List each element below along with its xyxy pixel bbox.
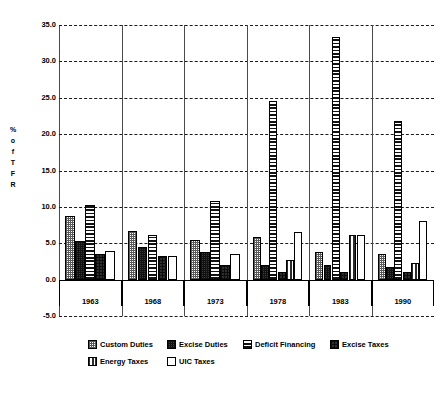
gridline [59,316,434,317]
bar [75,241,85,280]
bar-chart: %ofTFR 35.030.025.020.015.010.05.00.0-5.… [0,0,442,398]
y-axis-tick-label: 25.0 [22,94,56,102]
y-axis-tick-label: 30.0 [22,57,56,65]
bar [190,240,200,280]
bar [378,254,386,279]
legend-item-label: Energy Taxes [100,357,148,366]
legend-item-label: Excise Duties [179,340,228,349]
legend-item-label: Excise Taxes [342,340,389,349]
legend-item-label: Deficit Financing [255,340,315,349]
bars-layer [59,25,434,316]
y-axis-title-letter: % [6,124,20,135]
y-axis-tick-label: -5.0 [22,312,56,320]
bar [158,256,168,279]
x-axis-category-label: 1968 [122,297,185,306]
bar [340,272,348,279]
bar [261,265,269,280]
legend-item[interactable]: Excise Duties [167,338,228,350]
legend-item-label: UIC Taxes [179,357,215,366]
bar [278,272,286,279]
bar [85,205,95,280]
bar [65,216,75,280]
bar [253,237,261,279]
bar [269,101,277,279]
bar [95,254,105,279]
y-axis-tick-label: 10.0 [22,203,56,211]
legend-row: Energy TaxesUIC Taxes [0,355,442,371]
bar [394,121,402,280]
y-axis-title: %ofTFR [6,124,20,190]
legend-item[interactable]: Excise Taxes [330,338,389,350]
bar [419,221,427,279]
y-axis-title-letter: o [6,135,20,146]
bar [349,235,357,280]
y-axis-tick-label: 0.0 [22,276,56,284]
bar [168,256,178,280]
bar [210,201,220,280]
bar [128,231,138,280]
legend-item[interactable]: Deficit Financing [243,338,315,350]
legend-item[interactable]: Energy Taxes [88,355,148,367]
legend-item[interactable]: UIC Taxes [167,355,215,367]
legend-row: Custom DutiesExcise DutiesDeficit Financ… [0,338,442,354]
y-axis-title-letter: F [6,168,20,179]
x-axis-category-label: 1983 [309,297,372,306]
x-axis-category-label: 1978 [247,297,310,306]
bar [230,254,240,279]
y-axis-title-letter: f [6,146,20,157]
y-axis-title-letter: T [6,157,20,168]
bar [315,252,323,280]
y-axis-tick-label: 15.0 [22,167,56,175]
legend-swatch-icon [167,357,176,366]
bar [324,265,332,280]
x-axis-category-label: 1973 [184,297,247,306]
legend-swatch-icon [88,340,97,349]
y-axis-tick-label: 5.0 [22,239,56,247]
plot-area [59,25,434,316]
legend-swatch-icon [243,340,252,349]
legend-swatch-icon [167,340,176,349]
bar [332,37,340,279]
legend-item[interactable]: Custom Duties [88,338,153,350]
legend-item-label: Custom Duties [100,340,153,349]
y-axis-tick-label: 35.0 [22,21,56,29]
legend-swatch-icon [330,340,339,349]
bar [200,252,210,280]
bar [148,235,158,280]
bar [294,232,302,279]
y-axis-title-letter: R [6,179,20,190]
y-axis-tick-label: 20.0 [22,130,56,138]
x-axis-category-label: 1963 [59,297,122,306]
bar [105,251,115,280]
bar [286,260,294,280]
bar [386,267,394,280]
legend-swatch-icon [88,357,97,366]
bar [357,235,365,280]
bar [403,272,411,279]
bar [220,265,230,280]
x-axis-category-label: 1990 [372,297,435,306]
bar [411,263,419,280]
bar [138,247,148,280]
